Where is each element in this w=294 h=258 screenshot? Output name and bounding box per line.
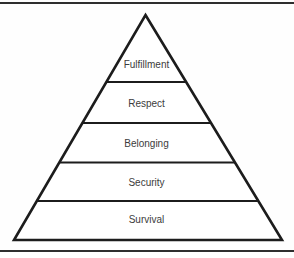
level-label-fulfillment: Fulfillment <box>124 59 170 70</box>
pyramid-figure: Fulfillment Respect Belonging Security S… <box>0 0 294 258</box>
level-label-security: Security <box>128 177 164 188</box>
level-label-respect: Respect <box>128 98 165 109</box>
level-label-belonging: Belonging <box>124 138 168 149</box>
pyramid-diagram: Fulfillment Respect Belonging Security S… <box>0 0 294 258</box>
level-label-survival: Survival <box>129 214 165 225</box>
pyramid-outline <box>14 15 282 240</box>
